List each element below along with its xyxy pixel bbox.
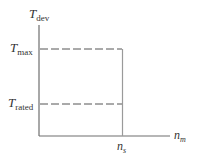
t-rated-label: Trated: [8, 95, 34, 112]
x-axis-label: nm: [174, 128, 186, 144]
t-max-label: Tmax: [10, 40, 33, 57]
n-s-label: ns: [117, 139, 126, 155]
torque-speed-diagram: Tdev Tmax Trated ns nm: [0, 0, 199, 155]
y-axis-label: Tdev: [29, 6, 50, 23]
